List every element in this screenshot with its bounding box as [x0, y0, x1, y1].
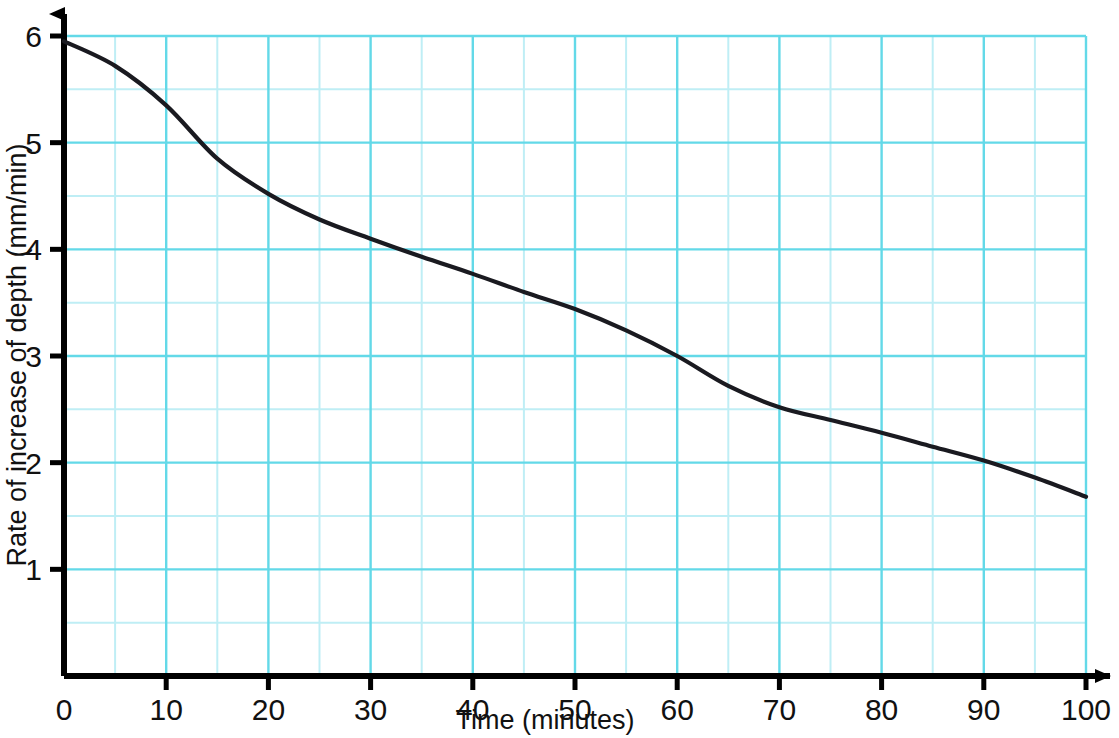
y-axis-title: Rate of increase of depth (mm/min) [2, 143, 32, 566]
x-tick-label: 100 [1061, 693, 1111, 726]
x-axis-title: Time (minutes) [455, 705, 634, 735]
x-tick-label: 80 [865, 693, 898, 726]
x-tick-label: 10 [150, 693, 183, 726]
line-chart: 0102030405060708090100 123456 Time (minu… [0, 0, 1119, 738]
x-tick-label: 0 [56, 693, 73, 726]
x-tick-label: 70 [763, 693, 796, 726]
y-tick-label: 6 [25, 20, 42, 53]
chart-container: 0102030405060708090100 123456 Time (minu… [0, 0, 1119, 738]
x-tick-label: 90 [967, 693, 1000, 726]
x-tick-label: 20 [252, 693, 285, 726]
x-tick-label: 60 [661, 693, 694, 726]
x-tick-label: 30 [354, 693, 387, 726]
chart-background [0, 0, 1119, 738]
